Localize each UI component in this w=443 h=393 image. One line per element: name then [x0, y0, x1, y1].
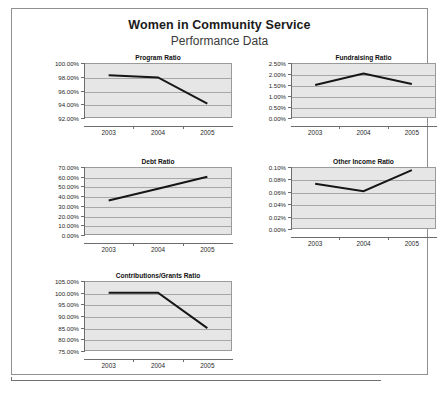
chart-body-fundraising-ratio: 2.50%2.00%1.50%1.00%0.50%0.00%2003200420… [249, 63, 439, 140]
footer-rule-tick [11, 377, 12, 381]
series-layer-contributions-grants-ratio [36, 281, 236, 375]
series-layer-debt-ratio [36, 167, 236, 259]
footer-rule [11, 380, 381, 381]
chart-panel-debt-ratio: Debt Ratio70.00%60.00%50.00%40.00%30.00%… [36, 157, 236, 257]
chart-panel-other-income-ratio: Other Income Ratio0.10%0.08%0.06%0.04%0.… [249, 157, 439, 251]
report-frame: Women in Community Service Performance D… [11, 8, 428, 375]
series-layer-fundraising-ratio [249, 63, 439, 142]
chart-panel-program-ratio: Program Ratio100.00%98.00%96.00%94.00%92… [36, 53, 236, 140]
chart-title-contributions-grants-ratio: Contributions/Grants Ratio [84, 271, 232, 281]
page-subtitle: Performance Data [12, 33, 427, 49]
chart-title-fundraising-ratio: Fundraising Ratio [291, 53, 436, 63]
page-title: Women in Community Service [12, 18, 427, 33]
chart-title-debt-ratio: Debt Ratio [84, 157, 232, 167]
series-layer-program-ratio [36, 63, 236, 142]
chart-body-contributions-grants-ratio: 105.00%100.00%95.00%90.00%85.00%80.00%75… [36, 281, 236, 373]
chart-title-program-ratio: Program Ratio [84, 53, 232, 63]
chart-body-debt-ratio: 70.00%60.00%50.00%40.00%30.00%20.00%10.0… [36, 167, 236, 257]
chart-body-program-ratio: 100.00%98.00%96.00%94.00%92.00%200320042… [36, 63, 236, 140]
report-header: Women in Community Service Performance D… [12, 9, 427, 49]
chart-panel-fundraising-ratio: Fundraising Ratio2.50%2.00%1.50%1.00%0.5… [249, 53, 439, 140]
series-line-debt-ratio [109, 177, 208, 201]
series-line-fundraising-ratio [315, 74, 412, 85]
series-line-other-income-ratio [315, 170, 412, 191]
chart-panel-contributions-grants-ratio: Contributions/Grants Ratio105.00%100.00%… [36, 271, 236, 373]
chart-title-other-income-ratio: Other Income Ratio [291, 157, 436, 167]
series-line-contributions-grants-ratio [109, 293, 208, 328]
chart-body-other-income-ratio: 0.10%0.08%0.06%0.04%0.02%0.00%2003200420… [249, 167, 439, 251]
series-line-program-ratio [109, 75, 208, 103]
series-layer-other-income-ratio [249, 167, 439, 253]
